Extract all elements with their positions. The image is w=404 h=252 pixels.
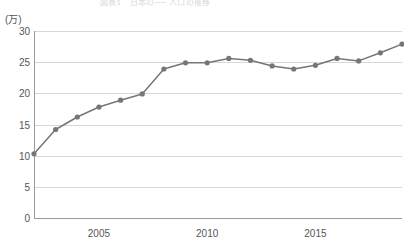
gridline	[34, 125, 402, 126]
y-axis-tick-label: 15	[8, 119, 30, 130]
y-axis-tick-label: 0	[8, 213, 30, 224]
data-point-marker	[226, 56, 231, 61]
y-axis-tick-label: 5	[8, 181, 30, 192]
chart-title-clipped: 図表1 日本の── 人口の推移	[0, 0, 404, 9]
chart-title: 図表1 日本の── 人口の推移	[100, 0, 211, 7]
y-axis-tick-label: 30	[8, 26, 30, 37]
y-axis-tick-label: 10	[8, 150, 30, 161]
gridline	[34, 187, 402, 188]
data-point-marker	[313, 63, 318, 68]
plot-area	[0, 0, 404, 252]
data-point-marker	[118, 98, 123, 103]
data-point-marker	[291, 66, 296, 71]
data-point-marker	[75, 114, 80, 119]
data-point-marker	[378, 50, 383, 55]
series-line	[34, 44, 402, 154]
y-axis-tick-label: 25	[8, 57, 30, 68]
series-markers	[31, 41, 404, 156]
y-axis-tick-label: 20	[8, 88, 30, 99]
x-axis-line	[34, 218, 402, 219]
x-axis-tick-label: 2010	[187, 228, 227, 239]
data-point-marker	[161, 66, 166, 71]
line-chart: 図表1 日本の── 人口の推移 (万) 302520151050 2005201…	[0, 0, 404, 252]
data-point-marker	[270, 63, 275, 68]
x-axis-tick-label: 2005	[79, 228, 119, 239]
data-point-marker	[399, 41, 404, 46]
y-axis-line	[34, 31, 35, 219]
gridline	[34, 62, 402, 63]
gridline	[34, 156, 402, 157]
gridline	[34, 93, 402, 94]
y-axis-unit-label: (万)	[5, 11, 22, 26]
data-point-marker	[96, 104, 101, 109]
gridline	[34, 31, 402, 32]
data-point-marker	[53, 127, 58, 132]
x-axis-tick-label: 2015	[295, 228, 335, 239]
data-point-marker	[334, 56, 339, 61]
